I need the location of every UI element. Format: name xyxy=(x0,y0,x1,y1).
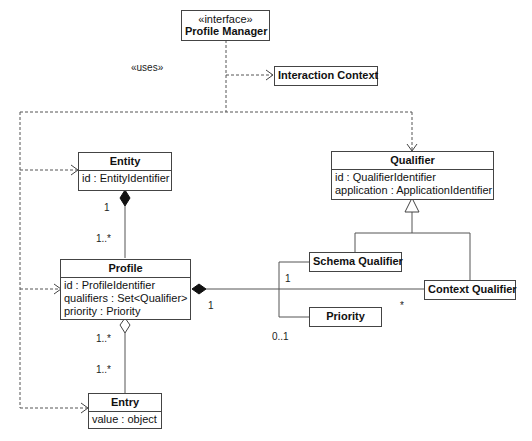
class-name: Priority xyxy=(310,308,381,325)
class-name: Entity xyxy=(79,153,171,170)
connector-lines xyxy=(0,0,532,441)
class-name: Entry xyxy=(89,394,161,411)
multiplicity-profile-end-context: 1 xyxy=(208,300,214,311)
class-context-qualifier[interactable]: Context Qualifier xyxy=(424,280,516,300)
generalization-triangle xyxy=(405,198,419,212)
class-name: Qualifier xyxy=(332,152,493,169)
class-name: Context Qualifier xyxy=(425,281,515,298)
class-schema-qualifier[interactable]: Schema Qualifier xyxy=(309,252,402,272)
attribute: id : EntityIdentifier xyxy=(82,172,168,185)
class-attributes: value : object xyxy=(89,411,161,427)
attribute: application : ApplicationIdentifier xyxy=(335,184,490,197)
class-attributes: id : EntityIdentifier xyxy=(79,170,171,186)
class-qualifier[interactable]: Qualifier id : QualifierIdentifier appli… xyxy=(331,151,494,200)
multiplicity-profile-end-entry: 1..* xyxy=(96,333,111,344)
class-entity[interactable]: Entity id : EntityIdentifier xyxy=(78,152,172,191)
multiplicity-priority-end: 0..1 xyxy=(272,331,289,342)
aggregation-diamond-profile xyxy=(120,318,130,333)
multiplicity-entry-end: 1..* xyxy=(96,364,111,375)
multiplicity-profile-end-entity: 1..* xyxy=(96,233,111,244)
class-name: Profile Manager xyxy=(182,25,269,40)
composition-diamond-entity xyxy=(120,190,130,206)
class-priority[interactable]: Priority xyxy=(309,307,382,327)
attribute: id : ProfileIdentifier xyxy=(64,279,187,292)
class-name: Interaction Context xyxy=(275,67,377,84)
attribute: priority : Priority xyxy=(64,305,187,318)
multiplicity-schema-end: 1 xyxy=(285,273,291,284)
class-name: Schema Qualifier xyxy=(310,253,401,270)
class-name: Profile xyxy=(61,260,190,277)
class-attributes: id : ProfileIdentifier qualifiers : Set<… xyxy=(61,277,190,319)
class-profile[interactable]: Profile id : ProfileIdentifier qualifier… xyxy=(60,259,191,320)
attribute: id : QualifierIdentifier xyxy=(335,171,490,184)
class-interaction-context[interactable]: Interaction Context xyxy=(274,66,378,86)
attribute: value : object xyxy=(92,413,158,426)
class-attributes: id : QualifierIdentifier application : A… xyxy=(332,169,493,198)
multiplicity-context-end: * xyxy=(400,300,404,311)
uses-stereotype-label: «uses» xyxy=(131,62,163,73)
class-profile-manager[interactable]: «interface» Profile Manager xyxy=(181,10,270,41)
multiplicity-entity-end: 1 xyxy=(104,202,110,213)
class-entry[interactable]: Entry value : object xyxy=(88,393,162,429)
stereotype-interface: «interface» xyxy=(182,11,269,25)
composition-diamond-profile xyxy=(192,284,206,294)
attribute: qualifiers : Set<Qualifier> xyxy=(64,292,187,305)
